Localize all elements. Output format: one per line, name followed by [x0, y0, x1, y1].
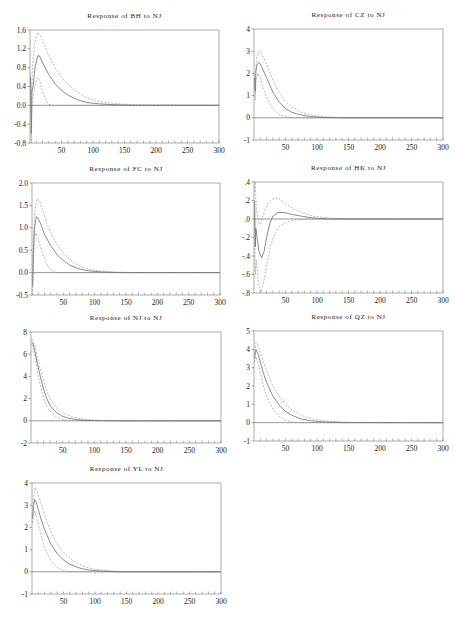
- confidence-band-line: [33, 487, 221, 571]
- y-tick-label: 0: [24, 567, 28, 576]
- chart-plot: -10123450100150200250300: [0, 0, 456, 621]
- x-tick-label: 250: [184, 597, 196, 606]
- y-tick-label: 1: [24, 545, 28, 554]
- x-tick-label: 50: [60, 597, 68, 606]
- response-line: [33, 500, 221, 572]
- y-tick-label: 4: [24, 479, 28, 488]
- y-tick-label: 3: [24, 501, 28, 510]
- plot-frame: [32, 483, 221, 594]
- confidence-band-line: [33, 511, 221, 572]
- y-tick-label: 2: [24, 523, 28, 532]
- y-tick-label: -1: [22, 590, 28, 599]
- x-tick-label: 300: [215, 597, 227, 606]
- x-tick-label: 200: [152, 597, 164, 606]
- x-tick-label: 150: [121, 597, 133, 606]
- x-tick-label: 100: [89, 597, 101, 606]
